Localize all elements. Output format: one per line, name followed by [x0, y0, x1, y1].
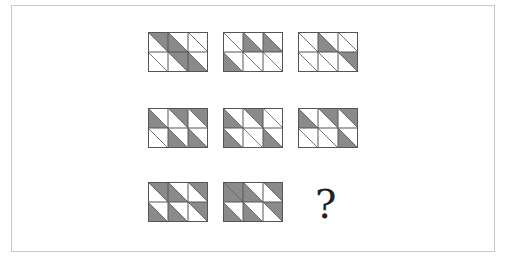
tile-r3c2	[223, 182, 283, 222]
tile-r2c3	[298, 108, 358, 148]
tile-r2c2	[223, 108, 283, 148]
tile-r1c2	[223, 32, 283, 72]
tile-r2c1	[148, 108, 208, 148]
tile-r1c3	[298, 32, 358, 72]
tile-r3c1	[148, 182, 208, 222]
missing-tile-question-mark: ?	[315, 184, 336, 224]
tile-r1c1	[148, 32, 208, 72]
